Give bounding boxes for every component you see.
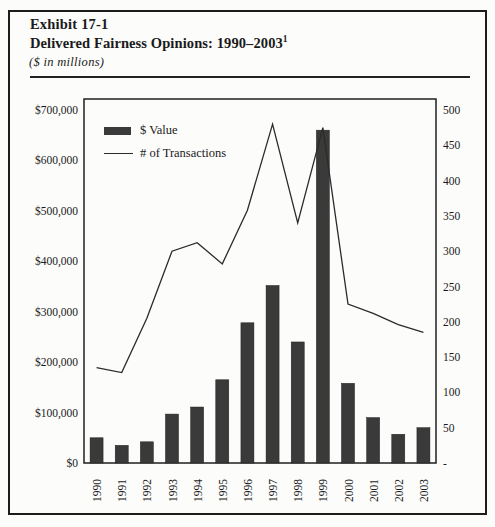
bar-2001 bbox=[367, 418, 380, 463]
left-axis-tick-label: $600,000 bbox=[35, 154, 78, 167]
legend-row-value: $ Value bbox=[104, 119, 226, 142]
right-axis-tick-label: 500 bbox=[443, 104, 461, 116]
left-axis-tick-label: $500,000 bbox=[35, 205, 78, 218]
bar-1993 bbox=[166, 414, 179, 463]
line-swatch-icon bbox=[104, 153, 133, 154]
right-axis-tick-label: 200 bbox=[443, 316, 461, 328]
x-axis-year-label: 1998 bbox=[292, 479, 304, 502]
right-axis-tick-label: 50 bbox=[443, 422, 455, 434]
right-axis-tick-label: 300 bbox=[443, 245, 461, 257]
x-axis-year-label: 1993 bbox=[167, 479, 179, 502]
legend-transactions-label: # of Transactions bbox=[140, 146, 226, 161]
chart-legend: $ Value # of Transactions bbox=[104, 119, 226, 165]
right-axis-tick-label: 250 bbox=[443, 281, 461, 293]
chart: $0$100,000$200,000$300,000$400,000$500,0… bbox=[0, 0, 495, 527]
left-axis-tick-label: $100,000 bbox=[35, 407, 78, 420]
right-axis-tick-label: 450 bbox=[443, 139, 461, 151]
right-axis-tick-label: 150 bbox=[443, 351, 461, 363]
bar-1998 bbox=[291, 342, 304, 463]
legend-value-label: $ Value bbox=[140, 123, 178, 138]
bar-2003 bbox=[417, 428, 430, 463]
bar-1999 bbox=[316, 130, 329, 463]
x-axis-year-label: 1991 bbox=[116, 479, 128, 502]
x-axis-year-label: 2002 bbox=[393, 479, 405, 502]
bar-1996 bbox=[241, 323, 254, 463]
bar-1990 bbox=[90, 438, 103, 463]
x-axis-year-label: 1995 bbox=[217, 479, 229, 502]
x-axis-year-label: 2000 bbox=[343, 479, 355, 502]
left-axis-tick-label: $400,000 bbox=[35, 255, 78, 268]
x-axis-year-label: 1990 bbox=[91, 479, 103, 502]
bar-1995 bbox=[216, 380, 229, 463]
left-axis-tick-label: $300,000 bbox=[35, 306, 78, 319]
page: Exhibit 17-1 Delivered Fairness Opinions… bbox=[0, 0, 495, 527]
x-axis-year-label: 2003 bbox=[418, 479, 430, 502]
bar-2002 bbox=[392, 434, 405, 463]
left-axis-tick-label: $200,000 bbox=[35, 356, 78, 369]
legend-row-transactions: # of Transactions bbox=[104, 142, 226, 165]
left-axis-tick-label: $0 bbox=[67, 457, 79, 469]
x-axis-year-label: 1996 bbox=[242, 479, 254, 502]
bar-1991 bbox=[115, 445, 128, 463]
bar-1994 bbox=[191, 407, 204, 463]
right-axis-tick-label: 100 bbox=[443, 386, 461, 398]
bar-2000 bbox=[342, 383, 355, 463]
bar-swatch-icon bbox=[104, 127, 131, 135]
right-axis-tick-label: 350 bbox=[443, 210, 461, 222]
right-axis-tick-label: - bbox=[443, 457, 447, 469]
left-axis-tick-label: $700,000 bbox=[35, 104, 78, 117]
x-axis-year-label: 1999 bbox=[317, 479, 329, 502]
bar-1992 bbox=[140, 442, 153, 463]
x-axis-year-label: 2001 bbox=[368, 479, 380, 502]
x-axis-year-label: 1992 bbox=[141, 479, 153, 502]
right-axis-tick-label: 400 bbox=[443, 175, 461, 187]
x-axis-year-label: 1997 bbox=[267, 479, 279, 502]
bar-1997 bbox=[266, 285, 279, 463]
x-axis-year-label: 1994 bbox=[192, 479, 204, 502]
